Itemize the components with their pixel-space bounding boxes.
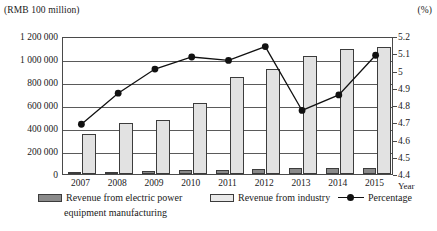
right-tick-label: 4.8 <box>398 101 410 111</box>
plot-area <box>62 37 393 175</box>
right-tick-label: 5 <box>398 67 403 77</box>
right-axis-unit-label: (%) <box>417 5 432 15</box>
x-tick-label-2012: 2012 <box>255 178 274 188</box>
legend-item-industry: Revenue from industry <box>210 192 330 204</box>
right-tick-label: 5.1 <box>398 49 410 59</box>
legend-label-equipment-line2: equipment manufacturing <box>64 207 167 218</box>
percentage-point-2013 <box>299 107 306 114</box>
right-tick-label: 4.4 <box>398 170 410 180</box>
right-tick-mark <box>393 158 397 159</box>
legend-label-percentage: Percentage <box>368 192 412 203</box>
revenue-percentage-combo-chart: (RMB 100 million) (%) 1 200 0001 000 000… <box>0 0 437 231</box>
right-tick-mark <box>393 175 397 176</box>
x-tick-label-2007: 2007 <box>71 178 90 188</box>
legend-label-equipment-line1: Revenue from electric power <box>66 192 182 203</box>
left-tick-label: 800 000 <box>27 78 58 88</box>
percentage-point-2008 <box>115 90 122 97</box>
x-tick-label-2014: 2014 <box>328 178 347 188</box>
left-axis-unit-label: (RMB 100 million) <box>4 5 80 15</box>
x-tick-label-2013: 2013 <box>292 178 311 188</box>
right-tick-mark <box>393 37 397 38</box>
percentage-point-2009 <box>152 66 159 73</box>
right-tick-label: 4.7 <box>398 118 410 128</box>
right-tick-mark <box>393 123 397 124</box>
legend-swatch-equipment-icon <box>38 194 62 202</box>
left-tick-label: 1 000 000 <box>20 55 58 65</box>
legend-item-percentage: Percentage <box>338 192 412 204</box>
legend-line-marker-icon <box>338 193 364 202</box>
right-tick-mark <box>393 54 397 55</box>
legend-item-equipment-line2: equipment manufacturing <box>64 207 167 218</box>
right-tick-mark <box>393 141 397 142</box>
left-tick-label: 400 000 <box>27 124 58 134</box>
legend-swatch-industry-icon <box>210 194 234 202</box>
percentage-point-2007 <box>78 121 85 128</box>
right-tick-mark <box>393 89 397 90</box>
left-tick-label: 0 <box>53 170 58 180</box>
right-tick-label: 4.5 <box>398 153 410 163</box>
x-tick-label-2009: 2009 <box>144 178 163 188</box>
percentage-point-2014 <box>335 92 342 99</box>
percentage-point-2011 <box>225 57 232 64</box>
x-axis-title: Year <box>398 181 415 191</box>
right-tick-label: 4.9 <box>398 84 410 94</box>
left-tick-label: 200 000 <box>27 147 58 157</box>
left-tick-label: 1 200 000 <box>20 32 58 42</box>
x-tick-label-2011: 2011 <box>218 178 237 188</box>
legend-item-equipment: Revenue from electric power <box>38 192 182 204</box>
percentage-point-2010 <box>188 54 195 61</box>
percentage-point-2012 <box>262 43 269 50</box>
x-tick-label-2008: 2008 <box>108 178 127 188</box>
right-tick-mark <box>393 72 397 73</box>
percentage-point-2015 <box>372 52 379 59</box>
right-tick-mark <box>393 106 397 107</box>
x-tick-label-2010: 2010 <box>181 178 200 188</box>
x-tick-label-2015: 2015 <box>365 178 384 188</box>
right-tick-label: 5.2 <box>398 32 410 42</box>
right-tick-label: 4.6 <box>398 136 410 146</box>
left-tick-label: 600 000 <box>27 101 58 111</box>
legend-label-industry: Revenue from industry <box>238 192 330 203</box>
percentage-line-series <box>63 38 394 176</box>
